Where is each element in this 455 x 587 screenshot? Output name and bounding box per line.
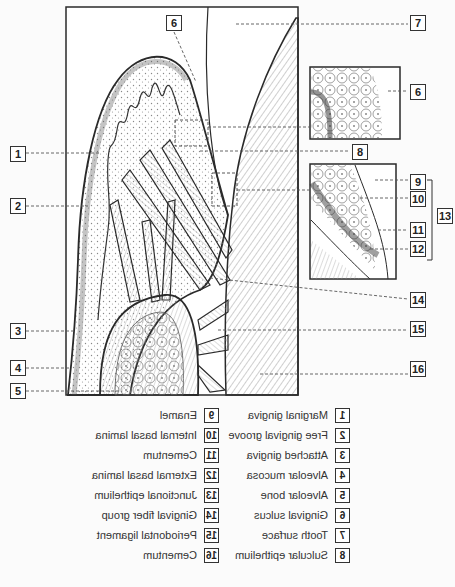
callout-c16: 16 — [410, 361, 426, 377]
legend-number: 6 — [335, 508, 350, 523]
legend-inner: 8Sulcular epithelium7Tooth surface6Gingi… — [0, 400, 455, 587]
legend-item: 10Internal basal lamina — [95, 427, 219, 443]
legend-label: Cementum — [143, 549, 197, 561]
callout-c3: 3 — [10, 323, 26, 339]
callout-c11: 11 — [410, 222, 426, 238]
legend-number: 10 — [204, 428, 219, 443]
legend-number: 4 — [335, 468, 350, 483]
callout-c5: 5 — [10, 383, 26, 399]
legend-number: 2 — [335, 428, 350, 443]
callout-c6b: 6 — [410, 84, 426, 100]
legend-label: Free gingival groove — [228, 429, 328, 441]
periodontium-illustration — [0, 0, 455, 400]
callout-c15: 15 — [410, 321, 426, 337]
legend-label: Marginal gingiva — [248, 409, 328, 421]
legend-number: 9 — [204, 408, 219, 423]
legend-label: External basal lamina — [92, 469, 197, 481]
legend-label: Periodontal ligament — [97, 529, 197, 541]
legend-item: 2Free gingival groove — [228, 427, 350, 443]
inset-junctional-epithelium — [310, 164, 396, 279]
legend-item: 16Cementum — [143, 547, 219, 563]
legend-label: Sulcular epithelium — [235, 549, 328, 561]
legend-item: 15Periodontal ligament — [97, 527, 219, 543]
legend-item: 14Gingival fiber group — [102, 507, 219, 523]
callout-c12: 12 — [410, 241, 426, 257]
legend-label: Alveolar mucosa — [247, 469, 328, 481]
legend-number: 5 — [335, 488, 350, 503]
callout-c7: 7 — [410, 15, 426, 31]
legend-item: 3Attached gingiva — [247, 447, 350, 463]
callout-c10: 10 — [410, 191, 426, 207]
legend-number: 13 — [204, 488, 219, 503]
legend-number: 16 — [204, 548, 219, 563]
legend-item: 4Alveolar mucosa — [247, 467, 350, 483]
legend-mirrored: 8Sulcular epithelium7Tooth surface6Gingi… — [0, 400, 455, 587]
legend-item: 5Alveolar bone — [261, 487, 350, 503]
legend-label: Attached gingiva — [247, 449, 328, 461]
legend-number: 1 — [335, 408, 350, 423]
legend-label: Internal basal lamina — [95, 429, 197, 441]
legend-label: Gingival fiber group — [102, 509, 197, 521]
legend-number: 12 — [204, 468, 219, 483]
bracket-13 — [427, 180, 432, 260]
legend-number: 15 — [204, 528, 219, 543]
legend-label: Cementum — [143, 449, 197, 461]
callout-c8: 8 — [352, 144, 368, 160]
legend-label: Enamel — [160, 409, 197, 421]
legend-label: Tooth surface — [262, 529, 328, 541]
legend-item: 8Sulcular epithelium — [235, 547, 350, 563]
legend-number: 11 — [204, 448, 219, 463]
legend-number: 14 — [204, 508, 219, 523]
callout-c13: 13 — [437, 208, 453, 224]
callout-c4: 4 — [10, 360, 26, 376]
legend-item: 1Marginal gingiva — [248, 407, 350, 423]
legend-label: Gingival sulcus — [254, 509, 328, 521]
legend-label: Junctional epithelium — [94, 489, 197, 501]
legend-item: 11Cementum — [143, 447, 219, 463]
inset-sulcular-epithelium — [310, 67, 400, 139]
legend-number: 7 — [335, 528, 350, 543]
callout-c14: 14 — [410, 292, 426, 308]
legend-item: 12External basal lamina — [92, 467, 219, 483]
callout-c9: 9 — [410, 174, 426, 190]
legend-number: 8 — [335, 548, 350, 563]
legend-label: Alveolar bone — [261, 489, 328, 501]
legend-item: 9Enamel — [160, 407, 219, 423]
callout-c2: 2 — [10, 198, 26, 214]
legend-item: 13Junctional epithelium — [94, 487, 219, 503]
callout-c6a: 6 — [166, 15, 182, 31]
legend-item: 6Gingival sulcus — [254, 507, 350, 523]
callout-c1: 1 — [10, 146, 26, 162]
legend-number: 3 — [335, 448, 350, 463]
legend-item: 7Tooth surface — [262, 527, 350, 543]
